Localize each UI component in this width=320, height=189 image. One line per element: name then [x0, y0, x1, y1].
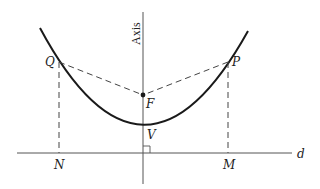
label-V: V [147, 128, 157, 142]
label-M: M [222, 158, 236, 172]
right-angle-marker [143, 146, 150, 153]
label-N: N [53, 158, 65, 172]
label-d: d [297, 147, 305, 161]
focus-point [141, 93, 146, 98]
axis-label: Axis [129, 22, 143, 45]
label-P: P [231, 55, 241, 69]
label-F: F [145, 97, 155, 111]
label-Q: Q [45, 55, 55, 69]
parabola-curve [40, 28, 248, 125]
parabola-diagram: Axis Q P F V N M d [0, 0, 320, 189]
segment-PF [143, 62, 228, 95]
diagram-canvas: Axis Q P F V N M d [0, 0, 320, 189]
